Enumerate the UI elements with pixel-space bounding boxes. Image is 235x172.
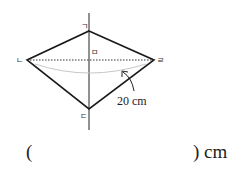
vertex-label-right: ㄹ: [157, 56, 164, 65]
answer-unit: ) cm: [193, 141, 227, 163]
measurement-arc: [35, 64, 146, 73]
answer-open-paren: (: [26, 141, 32, 163]
kite-diagram: ㄱ ㄴ ㄹ ㄷ ㅁ 20 cm: [0, 0, 235, 140]
vertex-label-left: ㄴ: [16, 56, 23, 65]
vertex-label-bottom: ㄷ: [80, 112, 87, 121]
vertex-label-top: ㄱ: [81, 22, 88, 31]
answer-field: ( ) cm: [0, 141, 235, 165]
vertex-label-center: ㅁ: [91, 48, 98, 57]
measurement-label: 20 cm: [117, 94, 147, 108]
